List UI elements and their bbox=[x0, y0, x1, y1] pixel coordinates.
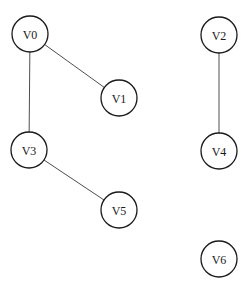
node-v2: V2 bbox=[201, 17, 237, 53]
node-label: V4 bbox=[212, 145, 227, 159]
node-label: V0 bbox=[23, 28, 38, 42]
node-label: V1 bbox=[112, 92, 127, 106]
edge-v0-v3 bbox=[29, 52, 30, 132]
edge-v3-v5 bbox=[44, 160, 104, 200]
node-label: V6 bbox=[212, 253, 227, 267]
edges-layer bbox=[29, 45, 219, 201]
node-v6: V6 bbox=[201, 241, 237, 277]
node-label: V2 bbox=[212, 29, 227, 43]
nodes-layer: V0V1V2V3V4V5V6 bbox=[11, 16, 237, 277]
edge-v0-v1 bbox=[45, 45, 105, 88]
node-v3: V3 bbox=[11, 132, 47, 168]
node-v4: V4 bbox=[201, 133, 237, 169]
node-v0: V0 bbox=[12, 16, 48, 52]
graph-canvas: V0V1V2V3V4V5V6 bbox=[0, 0, 249, 282]
node-label: V5 bbox=[112, 204, 127, 218]
node-label: V3 bbox=[22, 144, 37, 158]
node-v5: V5 bbox=[101, 192, 137, 228]
node-v1: V1 bbox=[101, 80, 137, 116]
